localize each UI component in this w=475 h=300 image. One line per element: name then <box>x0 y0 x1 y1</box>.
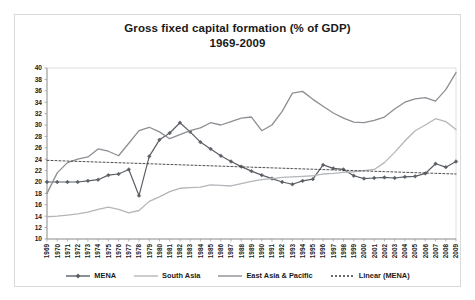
x-tick-label: 1982 <box>176 244 183 259</box>
x-tick-label: 1983 <box>186 244 193 259</box>
legend-label: MENA <box>94 271 116 280</box>
series-marker <box>372 176 376 180</box>
x-tick-label: 1990 <box>258 244 265 259</box>
y-tick-label: 34 <box>35 99 43 106</box>
chart-plot-area: 10121416182022242628303234363840 1969197… <box>15 15 462 288</box>
y-tick-label: 26 <box>35 144 43 151</box>
x-tick-label: 1978 <box>135 244 142 259</box>
y-tick-label: 30 <box>35 121 43 128</box>
legend-item-east-asia-pacific[interactable]: East Asia & Pacific <box>217 271 312 280</box>
y-tick-label: 36 <box>35 87 43 94</box>
legend-swatch-icon <box>330 272 356 280</box>
chart-legend: MENASouth AsiaEast Asia & PacificLinear … <box>15 271 460 280</box>
legend-label: Linear (MENA) <box>359 271 410 280</box>
data-series-group <box>45 73 458 217</box>
x-tick-label: 2006 <box>422 244 429 259</box>
y-tick-label: 22 <box>35 167 43 174</box>
x-tick-label: 1980 <box>156 244 163 259</box>
x-tick-label: 2007 <box>432 244 439 259</box>
x-tick-label: 1993 <box>289 244 296 259</box>
x-tick-label: 1994 <box>299 244 306 259</box>
series-marker <box>96 178 100 182</box>
x-tick-label: 1999 <box>350 244 357 259</box>
x-tick-label: 2002 <box>381 244 388 259</box>
y-tick-label: 20 <box>35 178 43 185</box>
x-tick-label: 1989 <box>248 244 255 259</box>
x-tick-label: 1970 <box>54 244 61 259</box>
y-tick-label: 24 <box>35 156 43 163</box>
legend-label: East Asia & Pacific <box>246 271 312 280</box>
legend-swatch-icon <box>217 272 243 280</box>
x-tick-label: 1979 <box>146 244 153 259</box>
x-tick-label: 1987 <box>227 244 234 259</box>
y-tick-label: 28 <box>35 133 43 140</box>
series-marker <box>393 176 397 180</box>
series-marker <box>413 174 417 178</box>
y-tick-label: 12 <box>35 224 43 231</box>
x-tick-label: 1976 <box>115 244 122 259</box>
chart-frame: Gross fixed capital formation (% of GDP)… <box>14 14 461 287</box>
legend-item-mena[interactable]: MENA <box>65 271 116 280</box>
x-tick-label: 1992 <box>278 244 285 259</box>
series-marker <box>127 168 131 172</box>
series-marker <box>280 180 284 184</box>
series-line-south-asia <box>47 119 456 217</box>
series-marker <box>260 173 264 177</box>
series-marker <box>86 179 90 183</box>
x-tick-label: 1991 <box>268 244 275 259</box>
legend-label: South Asia <box>162 271 200 280</box>
plot-border <box>47 68 456 239</box>
x-tick-label: 2004 <box>401 244 408 259</box>
y-tick-label: 10 <box>35 235 43 242</box>
series-marker <box>137 194 141 198</box>
series-marker <box>250 169 254 173</box>
y-tick-label: 38 <box>35 76 43 83</box>
series-marker <box>106 173 110 177</box>
y-tick-label: 16 <box>35 201 43 208</box>
x-tick-label: 2008 <box>442 244 449 259</box>
x-tick-label: 2005 <box>411 244 418 259</box>
y-tick-label: 32 <box>35 110 43 117</box>
series-marker <box>383 176 387 180</box>
series-marker <box>291 182 295 186</box>
x-tick-label: 1998 <box>340 244 347 259</box>
x-tick-label: 1971 <box>64 244 71 259</box>
x-tick-label: 2009 <box>452 244 459 259</box>
x-tick-label: 1988 <box>238 244 245 259</box>
series-marker <box>301 179 305 183</box>
x-tick-label: 2003 <box>391 244 398 259</box>
y-tick-label: 14 <box>35 213 43 220</box>
x-tick-label: 1984 <box>197 244 204 259</box>
x-tick-label: 1972 <box>74 244 81 259</box>
series-marker <box>362 177 366 181</box>
series-marker <box>55 180 59 184</box>
x-tick-label: 2001 <box>371 244 378 259</box>
legend-swatch-icon <box>133 272 159 280</box>
x-tick-label: 1977 <box>125 244 132 259</box>
legend-item-linear-mena[interactable]: Linear (MENA) <box>330 271 410 280</box>
x-tick-label: 1995 <box>309 244 316 259</box>
x-tick-label: 1986 <box>217 244 224 259</box>
series-marker <box>45 180 49 184</box>
y-tick-label: 18 <box>35 190 43 197</box>
legend-swatch-icon <box>65 272 91 280</box>
series-marker <box>76 180 80 184</box>
x-tick-label: 1973 <box>84 244 91 259</box>
legend-item-south-asia[interactable]: South Asia <box>133 271 200 280</box>
series-marker <box>403 175 407 179</box>
x-tick-label: 1981 <box>166 244 173 259</box>
x-tick-label: 2000 <box>360 244 367 259</box>
x-tick-label: 1975 <box>105 244 112 259</box>
x-tick-label: 1985 <box>207 244 214 259</box>
series-marker <box>117 172 121 176</box>
x-axis: 1969197019711972197319741975197619771978… <box>43 239 459 258</box>
y-tick-label: 40 <box>35 64 43 71</box>
x-tick-label: 1997 <box>330 244 337 259</box>
series-line-mena <box>47 123 456 196</box>
series-marker <box>66 180 70 184</box>
x-tick-label: 1969 <box>43 244 50 259</box>
x-tick-label: 1996 <box>319 244 326 259</box>
x-tick-label: 1974 <box>94 244 101 259</box>
